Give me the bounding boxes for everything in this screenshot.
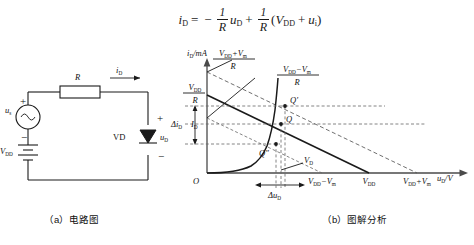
point-marker-q-prime	[283, 104, 287, 108]
minus-sign: −	[204, 12, 211, 28]
term-vdd: VDD	[275, 12, 295, 28]
leader-vdd-plus-vm	[207, 60, 232, 72]
numerator: 1	[259, 7, 269, 19]
sine-wave-icon	[21, 114, 35, 120]
current-label: iD	[116, 65, 122, 76]
diode-plus-sign: +	[157, 112, 163, 124]
caption-graphical-analysis: （b）图解分析	[322, 212, 387, 226]
plus-sign: +	[245, 12, 252, 28]
x-axis-arrow	[460, 170, 469, 177]
operating-point-q-label: Q	[286, 114, 292, 124]
x-axis-label: uD/V	[437, 173, 454, 184]
y-axis-arrow	[204, 58, 211, 67]
inner-plus-sign: +	[298, 12, 305, 28]
operating-point-q-prime-label: Q′	[290, 95, 298, 105]
battery-label: VDD	[0, 146, 13, 157]
fraction-one-over-r-first: 1 R	[217, 7, 228, 34]
denominator-text: R	[293, 77, 300, 87]
x-tick-vdd-minus-vm: VDD−Vm	[308, 176, 337, 187]
denominator: R	[258, 21, 269, 33]
delta-u-label: ΔuD	[267, 190, 281, 201]
equation-block: iD = − 1 R uD + 1 R ( VDD + ui )	[160, 4, 340, 36]
y-axis-label: iD/mA	[187, 48, 208, 59]
load-line-vdd-plus-vm	[207, 72, 417, 173]
numerator: 1	[218, 7, 228, 19]
diode-triangle	[140, 130, 156, 143]
fraction-one-over-r-second: 1 R	[258, 7, 269, 34]
leader-v-d	[281, 163, 303, 170]
equals-sign: =	[191, 12, 198, 28]
label-vdd-minus-vm-over-r: VDD−Vm R	[277, 64, 319, 87]
denominator-text: R	[229, 61, 236, 71]
resistor-body	[60, 86, 100, 98]
circuit-svg: R iD us + − VDD	[0, 50, 185, 210]
diode-voltage-label: uD	[160, 132, 168, 143]
source-minus-sign: −	[21, 131, 27, 143]
caption-circuit-diagram: （a）电路图	[44, 212, 99, 226]
quiescent-voltage-label: VD	[304, 155, 313, 166]
numerator-text: VDD	[189, 82, 202, 93]
quiescent-current-label: ID	[190, 119, 198, 130]
figure-root: iD = − 1 R uD + 1 R ( VDD + ui )	[0, 0, 474, 245]
paren-close: )	[317, 12, 321, 28]
current-arrow-head	[134, 76, 140, 81]
equation-row: iD = − 1 R uD + 1 R ( VDD + ui )	[179, 7, 322, 34]
operating-point-q-double-prime-label: Q″	[259, 148, 269, 158]
source-label: us	[5, 105, 11, 116]
graph-svg: iD/mA uD/V O VDD+Vm	[185, 48, 474, 213]
point-marker-q	[279, 122, 283, 126]
graphical-analysis-diagram: iD/mA uD/V O VDD+Vm	[185, 48, 474, 213]
denominator: R	[217, 21, 228, 33]
origin-label: O	[193, 176, 199, 186]
term-ud: uD	[230, 12, 242, 28]
numerator-text: VDD−Vm	[283, 64, 312, 75]
x-tick-vdd-plus-vm: VDD+Vm	[403, 176, 432, 187]
delta-u-arrow-head-right	[299, 183, 305, 188]
source-plus-sign: +	[20, 95, 26, 107]
denominator-text: R	[191, 95, 198, 105]
load-line-vdd	[207, 95, 369, 173]
label-vdd-plus-vm-over-r: VDD+Vm R	[213, 48, 255, 71]
x-tick-vdd: VDD	[363, 176, 376, 187]
equation-lhs: iD	[179, 12, 188, 28]
label-vdd-over-r: VDD R	[183, 82, 205, 105]
diode-label: VD	[113, 132, 125, 142]
delta-u-arrow-head-left	[255, 183, 261, 188]
point-marker-q-double-prime	[274, 142, 278, 146]
term-ui: ui	[308, 12, 317, 28]
diode-minus-sign: −	[158, 150, 164, 162]
circuit-diagram: R iD us + − VDD	[0, 50, 185, 210]
diode-characteristic-curve	[207, 78, 278, 173]
numerator-text: VDD+Vm	[219, 48, 248, 59]
resistor-label: R	[74, 72, 81, 82]
